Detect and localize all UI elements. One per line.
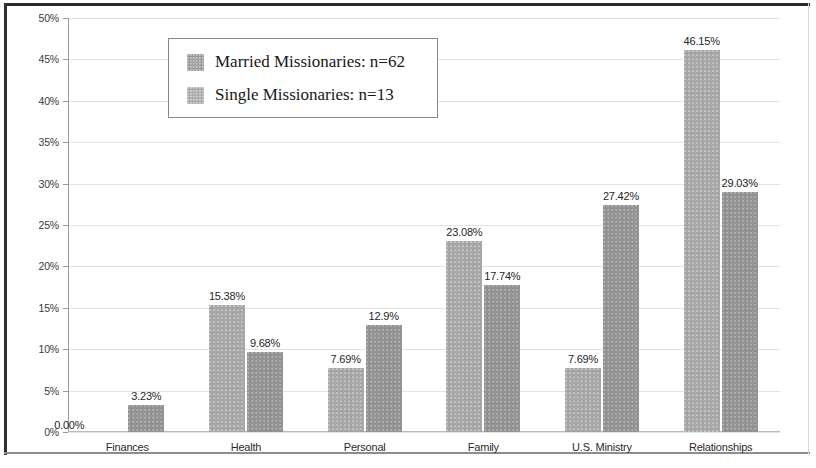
bar: 15.38% <box>209 305 245 432</box>
legend-label: Married Missionaries: n=62 <box>215 52 405 72</box>
x-axis-category-label: Personal <box>344 441 386 453</box>
bar-value-label: 15.38% <box>209 290 245 302</box>
bar-group: 23.08%17.74%Family <box>424 18 543 432</box>
x-axis-category-label: Health <box>231 441 262 453</box>
chart-figure: 50%45%40%35%30%25%20%15%10%5%0% 0.00%3.2… <box>0 0 816 468</box>
bar-value-label: 7.69% <box>331 353 361 365</box>
y-axis-tick <box>63 432 68 433</box>
x-axis-category-label: Finances <box>106 441 149 453</box>
y-axis-tick-label: 20% <box>39 260 59 272</box>
bar-value-label: 23.08% <box>446 226 482 238</box>
plot-container: 50%45%40%35%30%25%20%15%10%5%0% 0.00%3.2… <box>10 8 806 452</box>
y-axis-tick-label: 25% <box>39 219 59 231</box>
legend-label: Single Missionaries: n=13 <box>215 85 394 105</box>
bar: 46.15% <box>684 50 720 432</box>
y-axis-tick-label: 5% <box>44 385 59 397</box>
frame-left-border <box>4 3 7 455</box>
bar-group: 7.69%27.42%U.S. Ministry <box>543 18 662 432</box>
bar: 29.03% <box>722 192 758 432</box>
frame-right-border <box>808 3 809 455</box>
x-axis-category-label: Family <box>468 441 499 453</box>
frame-top-border <box>4 3 810 6</box>
chart-legend: Married Missionaries: n=62 Single Missio… <box>168 38 438 118</box>
x-axis-category-label: U.S. Ministry <box>572 441 632 453</box>
y-axis-tick-label: 10% <box>39 343 59 355</box>
bar-value-label: 7.69% <box>568 353 598 365</box>
bar: 7.69% <box>328 368 364 432</box>
bar-value-label: 12.9% <box>369 310 399 322</box>
bar-value-label: 0.00% <box>54 419 84 431</box>
legend-swatch-icon <box>187 87 204 104</box>
bar-value-label: 9.68% <box>250 337 280 349</box>
bar-value-label: 17.74% <box>484 270 520 282</box>
bar: 7.69% <box>565 368 601 432</box>
bar-value-label: 29.03% <box>722 177 758 189</box>
gridline <box>68 432 780 433</box>
legend-swatch-icon <box>187 54 204 71</box>
y-axis-tick-label: 15% <box>39 302 59 314</box>
legend-entry-married: Married Missionaries: n=62 <box>187 52 405 72</box>
bar: 23.08% <box>446 241 482 432</box>
bar-group: 46.15%29.03%Relationships <box>661 18 780 432</box>
bar: 27.42% <box>603 205 639 432</box>
bar-value-label: 27.42% <box>603 190 639 202</box>
bar: 17.74% <box>484 285 520 432</box>
legend-entry-single: Single Missionaries: n=13 <box>187 85 394 105</box>
y-axis-tick-label: 30% <box>39 178 59 190</box>
bar: 9.68% <box>247 352 283 432</box>
x-axis-category-label: Relationships <box>689 441 752 453</box>
y-axis-tick-label: 45% <box>39 53 59 65</box>
bar: 3.23% <box>128 405 164 432</box>
y-axis-tick-label: 40% <box>39 95 59 107</box>
y-axis-tick-label: 50% <box>39 12 59 24</box>
bar-value-label: 46.15% <box>684 35 720 47</box>
y-axis-tick-label: 35% <box>39 136 59 148</box>
bar-value-label: 3.23% <box>131 390 161 402</box>
bar: 12.9% <box>366 325 402 432</box>
